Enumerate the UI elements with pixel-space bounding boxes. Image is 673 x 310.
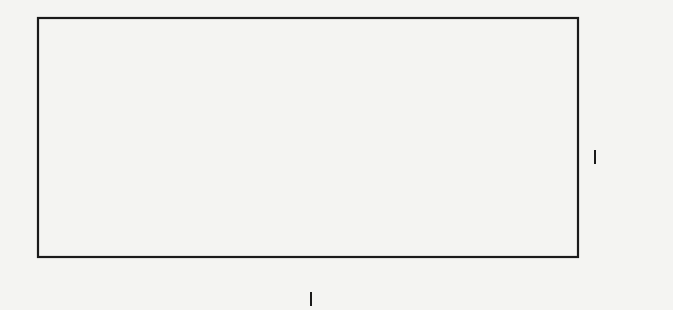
figure-root [0,0,673,310]
subscript-one-glyph [306,279,307,294]
vertical-axis-label [589,128,591,152]
horizontal-axis-label [305,270,307,294]
figure-canvas [0,0,673,310]
subscript-one-glyph [590,137,591,152]
figure-background [0,0,673,310]
